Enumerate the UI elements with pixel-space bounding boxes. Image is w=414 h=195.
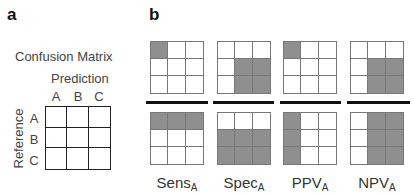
ppv-label: PPVA xyxy=(275,174,345,193)
empty-cell xyxy=(168,59,185,76)
empty-cell xyxy=(351,113,368,130)
empty-cell xyxy=(186,130,203,147)
sens-label-subscript: A xyxy=(191,182,198,193)
cm-cell xyxy=(67,148,88,169)
empty-cell xyxy=(218,113,235,130)
empty-cell xyxy=(218,59,235,76)
prediction-axis-label: Prediction xyxy=(51,71,109,86)
shaded-cell xyxy=(253,147,270,164)
cm-cell xyxy=(46,148,67,169)
empty-cell xyxy=(168,76,185,93)
reference-axis-label: Reference xyxy=(11,99,26,179)
shaded-cell xyxy=(168,113,185,130)
sens-denominator-grid xyxy=(150,112,204,165)
sens-fraction-bar xyxy=(146,101,208,104)
empty-cell xyxy=(186,42,203,59)
sens-numerator-grid xyxy=(150,41,204,94)
empty-cell xyxy=(284,59,301,76)
panel-b-label: b xyxy=(149,5,159,25)
sens-label-text: Sens xyxy=(157,174,191,191)
empty-cell xyxy=(319,76,336,93)
spec-label-subscript: A xyxy=(258,182,265,193)
empty-cell xyxy=(319,59,336,76)
empty-cell xyxy=(368,42,385,59)
empty-cell xyxy=(351,59,368,76)
npv-denominator-grid xyxy=(350,112,404,165)
shaded-cell xyxy=(368,76,385,93)
empty-cell xyxy=(319,130,336,147)
empty-cell xyxy=(301,42,318,59)
empty-cell xyxy=(186,147,203,164)
cm-cell xyxy=(46,128,67,149)
empty-cell xyxy=(151,59,168,76)
sens-label: SensA xyxy=(142,174,212,193)
empty-cell xyxy=(319,113,336,130)
shaded-cell xyxy=(386,59,403,76)
empty-cell xyxy=(218,42,235,59)
cm-cell xyxy=(46,107,67,128)
npv-label-subscript: A xyxy=(389,182,396,193)
spec-denominator-grid xyxy=(217,112,271,165)
shaded-cell xyxy=(151,42,168,59)
confusion-matrix-grid xyxy=(45,106,111,170)
empty-cell xyxy=(319,42,336,59)
cm-cell xyxy=(67,128,88,149)
shaded-cell xyxy=(386,130,403,147)
shaded-cell xyxy=(386,147,403,164)
cm-cell xyxy=(89,128,110,149)
empty-cell xyxy=(186,76,203,93)
shaded-cell xyxy=(235,147,252,164)
ppv-fraction-bar xyxy=(280,101,341,104)
shaded-cell xyxy=(218,130,235,147)
row-label-b: B xyxy=(24,132,44,147)
shaded-cell xyxy=(368,59,385,76)
empty-cell xyxy=(301,147,318,164)
empty-cell xyxy=(319,147,336,164)
shaded-cell xyxy=(368,113,385,130)
npv-label: NPVA xyxy=(342,174,412,193)
shaded-cell xyxy=(253,59,270,76)
ppv-label-text: PPV xyxy=(292,174,322,191)
empty-cell xyxy=(301,59,318,76)
row-label-c: C xyxy=(24,153,44,168)
npv-numerator-grid xyxy=(350,41,404,94)
shaded-cell xyxy=(386,76,403,93)
npv-label-text: NPV xyxy=(358,174,389,191)
cm-cell xyxy=(67,107,88,128)
confusion-matrix-title: Confusion Matrix xyxy=(15,49,113,64)
empty-cell xyxy=(168,42,185,59)
shaded-cell xyxy=(386,113,403,130)
empty-cell xyxy=(301,130,318,147)
empty-cell xyxy=(235,113,252,130)
empty-cell xyxy=(168,147,185,164)
npv-fraction-bar xyxy=(347,101,410,104)
shaded-cell xyxy=(151,113,168,130)
empty-cell xyxy=(253,113,270,130)
ppv-numerator-grid xyxy=(283,41,337,94)
empty-cell xyxy=(386,42,403,59)
empty-cell xyxy=(351,147,368,164)
cm-cell xyxy=(89,107,110,128)
empty-cell xyxy=(218,76,235,93)
shaded-cell xyxy=(235,59,252,76)
empty-cell xyxy=(151,130,168,147)
empty-cell xyxy=(235,42,252,59)
shaded-cell xyxy=(368,147,385,164)
shaded-cell xyxy=(253,130,270,147)
empty-cell xyxy=(351,42,368,59)
shaded-cell xyxy=(284,113,301,130)
empty-cell xyxy=(301,113,318,130)
row-label-a: A xyxy=(24,111,44,126)
empty-cell xyxy=(151,76,168,93)
ppv-denominator-grid xyxy=(283,112,337,165)
column-label-a: A xyxy=(46,89,66,104)
shaded-cell xyxy=(235,76,252,93)
shaded-cell xyxy=(253,76,270,93)
spec-label-text: Spec xyxy=(224,174,258,191)
shaded-cell xyxy=(284,130,301,147)
column-label-b: B xyxy=(68,89,88,104)
shaded-cell xyxy=(368,130,385,147)
empty-cell xyxy=(151,147,168,164)
spec-fraction-bar xyxy=(213,101,274,104)
shaded-cell xyxy=(218,147,235,164)
